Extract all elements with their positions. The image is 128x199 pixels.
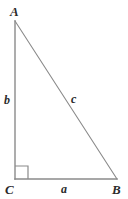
right-angle-marker: [15, 166, 28, 179]
vertex-label-b: B: [112, 183, 121, 196]
vertex-label-a: A: [10, 5, 19, 18]
triangle-drawing: [0, 0, 128, 199]
right-triangle-figure: A B C a b c: [0, 0, 128, 199]
vertex-label-c: C: [5, 183, 14, 196]
side-label-a: a: [61, 183, 67, 195]
side-label-c: c: [71, 93, 76, 105]
side-c-hypotenuse-line: [15, 21, 117, 179]
side-label-b: b: [4, 94, 10, 106]
